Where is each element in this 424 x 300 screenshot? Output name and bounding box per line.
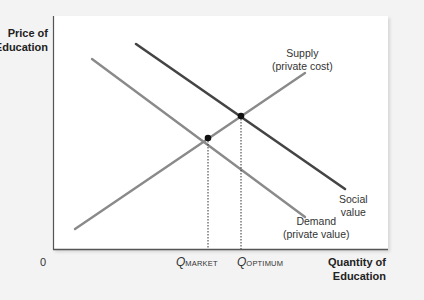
demand-label-line2: (private value) — [283, 228, 350, 241]
supply-label: Supply (private cost) — [272, 47, 333, 73]
chart-page: Price of Education Quantity of Education… — [0, 0, 424, 300]
demand-label-line1: Demand — [283, 215, 350, 228]
market-equilibrium-point — [205, 135, 212, 142]
x-axis-label: Quantity of Education — [328, 255, 386, 283]
demand-label: Demand (private value) — [283, 215, 350, 241]
y-axis-label-line2: Education — [0, 40, 48, 54]
y-axis-label: Price of Education — [0, 26, 48, 54]
y-axis-label-line1: Price of — [0, 26, 48, 40]
origin-label: 0 — [40, 256, 46, 268]
supply-label-line1: Supply — [272, 47, 333, 60]
social-value-label-line1: Social — [339, 193, 368, 206]
x-axis-label-line2: Education — [328, 269, 386, 283]
supply-curve — [75, 73, 305, 229]
q-market-main: Q — [176, 255, 185, 269]
q-market-label: QMARKET — [176, 255, 218, 269]
q-optimum-main: Q — [237, 255, 246, 269]
optimum-equilibrium-point — [238, 113, 245, 120]
q-optimum-label: QOPTIMUM — [237, 255, 283, 269]
x-axis-label-line1: Quantity of — [328, 255, 386, 269]
q-optimum-sub: OPTIMUM — [246, 259, 283, 268]
supply-label-line2: (private cost) — [272, 60, 333, 73]
q-market-sub: MARKET — [185, 259, 217, 268]
